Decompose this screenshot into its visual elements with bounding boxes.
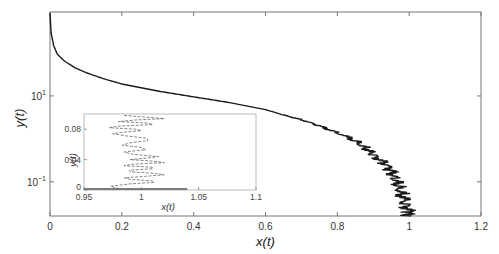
x-tick-label: 0.2 (115, 221, 129, 232)
x-tick-label: 1 (406, 221, 412, 232)
inset-y-tick-label: 0.08 (64, 124, 81, 134)
x-tick-label: 0.4 (187, 221, 201, 232)
x-tick-label: 0.8 (330, 221, 344, 232)
inset-axes: 0.9511.051.100.040.08x(t)y(t) (64, 114, 262, 212)
x-tick-label: 0 (47, 221, 53, 232)
inset-x-tick-label: 1.05 (190, 192, 207, 202)
inset-y-tick-label: 0 (76, 182, 81, 192)
y-tick-label: 10−1 (27, 175, 46, 188)
chart-figure: 00.20.40.60.811.210110−1x(t)y(t) 0.9511.… (0, 0, 499, 254)
inset-x-tick-label: 1 (139, 192, 144, 202)
inset-x-tick-label: 1.1 (250, 192, 262, 202)
inset-x-axis-label: x(t) (160, 201, 175, 212)
y-axis-label: y(t) (12, 109, 27, 129)
inset-y-axis-label: y(t) (67, 153, 78, 168)
y-tick-label: 101 (31, 89, 46, 102)
x-tick-label: 0.6 (259, 221, 273, 232)
inset-plot-frame (84, 114, 256, 190)
x-axis-label: x(t) (255, 234, 275, 249)
x-tick-label: 1.2 (474, 221, 488, 232)
inset-x-tick-label: 0.95 (76, 192, 93, 202)
